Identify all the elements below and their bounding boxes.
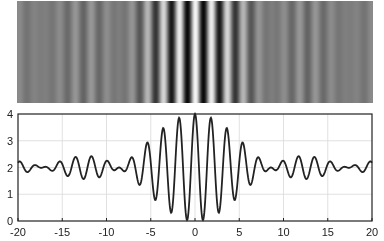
x-tick-label: 15 <box>322 226 334 238</box>
y-tick-label: 4 <box>7 108 13 120</box>
y-tick-label: 2 <box>7 162 13 174</box>
x-tick-label: 5 <box>236 226 242 238</box>
y-tick-label: 0 <box>7 215 13 227</box>
x-tick-label: -5 <box>146 226 156 238</box>
y-tick-label: 1 <box>7 188 13 200</box>
y-axis-ticks: 01234 <box>7 108 13 227</box>
x-tick-label: -20 <box>10 226 26 238</box>
x-tick-label: -10 <box>99 226 115 238</box>
y-tick-label: 3 <box>7 135 13 147</box>
x-axis-ticks: -20-15-10-505101520 <box>10 226 378 238</box>
x-tick-label: 10 <box>277 226 289 238</box>
x-tick-label: -15 <box>54 226 70 238</box>
intensity-line-chart: -20-15-10-505101520 01234 <box>0 0 384 241</box>
x-tick-label: 0 <box>192 226 198 238</box>
x-tick-label: 20 <box>366 226 378 238</box>
